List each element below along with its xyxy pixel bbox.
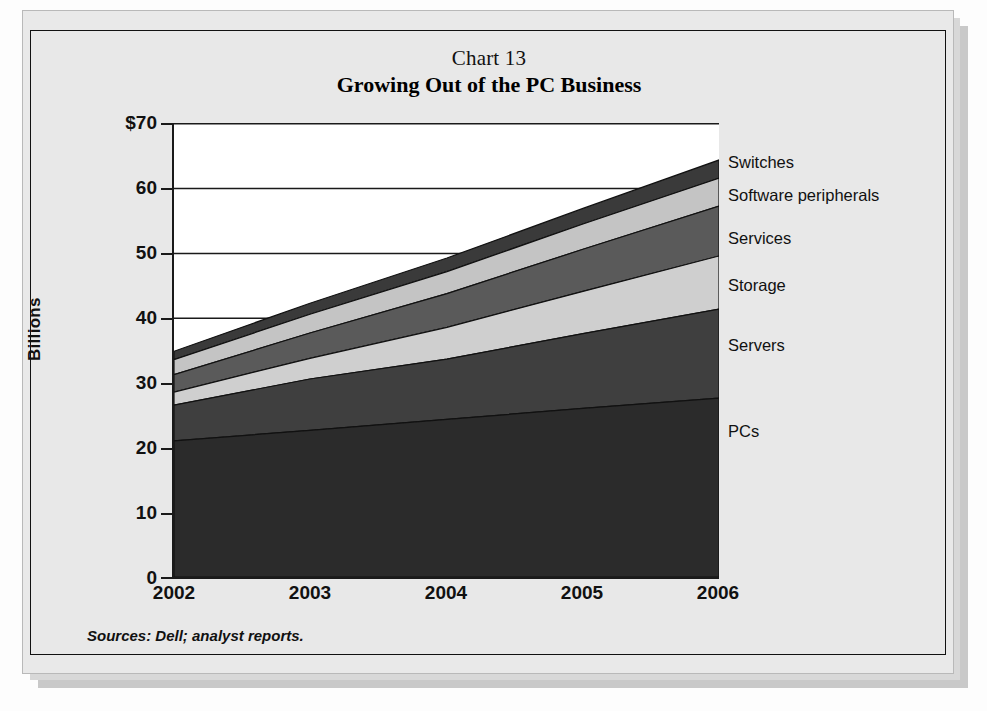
- y-tick-30: 30: [136, 372, 157, 394]
- y-tick-40: 40: [136, 307, 157, 329]
- chart-number: Chart 13: [31, 45, 947, 71]
- series-label-services: Services: [728, 229, 791, 248]
- y-tickmark-20: [161, 448, 172, 450]
- chart-title: Growing Out of the PC Business: [31, 71, 947, 100]
- y-tickmark-40: [161, 318, 172, 320]
- page-root: Chart 13 Growing Out of the PC Business …: [0, 0, 987, 711]
- y-tickmark-70: [161, 123, 172, 125]
- y-tick-70: $70: [125, 112, 157, 134]
- series-label-servers: Servers: [728, 336, 785, 355]
- series-label-software-peripherals: Software peripherals: [728, 186, 879, 205]
- y-tickmark-60: [161, 188, 172, 190]
- x-tick-2006: 2006: [678, 582, 758, 604]
- chart-header: Chart 13 Growing Out of the PC Business: [31, 45, 947, 100]
- stacked-area-chart: [174, 123, 719, 577]
- y-tick-60: 60: [136, 177, 157, 199]
- y-axis-labels: $70 60 50 40 30 20 10 0: [31, 31, 157, 656]
- x-tick-2004: 2004: [406, 582, 486, 604]
- x-tick-2002: 2002: [134, 582, 214, 604]
- chart-card: Chart 13 Growing Out of the PC Business …: [30, 30, 946, 655]
- y-tickmark-10: [161, 513, 172, 515]
- series-label-switches: Switches: [728, 153, 794, 172]
- plot-area: [172, 123, 719, 579]
- y-tickmark-30: [161, 383, 172, 385]
- source-note: Sources: Dell; analyst reports.: [87, 627, 304, 644]
- y-tickmark-50: [161, 253, 172, 255]
- y-tick-20: 20: [136, 437, 157, 459]
- x-tick-2003: 2003: [270, 582, 350, 604]
- y-tick-50: 50: [136, 242, 157, 264]
- series-label-storage: Storage: [728, 276, 786, 295]
- x-tick-2005: 2005: [542, 582, 622, 604]
- series-label-pcs: PCs: [728, 422, 759, 441]
- y-axis-title: Billions: [25, 297, 45, 361]
- y-tickmark-0: [161, 577, 172, 579]
- y-tick-10: 10: [136, 502, 157, 524]
